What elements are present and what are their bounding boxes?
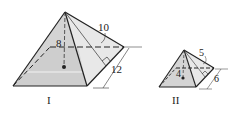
pyramid-1: 8 10 12 I (13, 12, 142, 106)
pyramid-1-base-shade (13, 47, 87, 86)
pyramids-diagram: 8 10 12 I 4 5 6 II (0, 0, 245, 114)
pyramid-2-base-center (181, 76, 184, 79)
pyramid-2: 4 5 6 II (159, 47, 228, 106)
pyramid-1-height-label: 8 (56, 37, 62, 49)
pyramid-1-base-label: 12 (111, 63, 122, 75)
pyramid-2-label: II (172, 94, 180, 106)
pyramid-1-label: I (47, 94, 51, 106)
pyramid-2-slant-label: 5 (199, 47, 204, 58)
pyramid-1-slant-label: 10 (98, 21, 110, 33)
pyramid-2-base-label: 6 (214, 73, 219, 84)
pyramid-2-height-label: 4 (176, 68, 181, 79)
pyramid-1-base-center (62, 65, 66, 69)
